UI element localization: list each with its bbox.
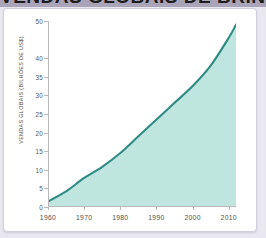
area-series [48,21,236,207]
y-tick-mark [44,77,48,78]
plot-area: 051015202530354050 196019701980199020002… [48,21,236,207]
y-tick-mark [44,151,48,152]
x-tick-label: 1970 [76,214,92,221]
y-tick-mark [44,170,48,171]
y-tick-mark [44,188,48,189]
page-title: VENDAS GLOBAIS DE BRINQUEDOS [0,0,266,7]
y-tick-label: 35 [36,73,43,80]
x-tick-mark [84,206,85,210]
y-tick-label: 50 [36,18,43,25]
y-tick-mark [44,58,48,59]
x-axis-line [48,206,236,207]
y-tick-mark [44,114,48,115]
x-tick-label: 1990 [148,214,164,221]
x-tick-mark [156,206,157,210]
title-banner: VENDAS GLOBAIS DE BRINQUEDOS [0,0,266,7]
y-tick-mark [44,133,48,134]
y-tick-label: 30 [36,92,43,99]
x-tick-label: 1960 [40,214,56,221]
y-axis-line [48,21,49,207]
x-tick-mark [48,206,49,210]
x-tick-mark [229,206,230,210]
chart-screenshot: VENDAS GLOBAIS DE BRINQUEDOS VENDAS GLOB… [0,0,266,238]
area-fill [48,25,236,207]
y-tick-mark [44,95,48,96]
y-tick-label: 0 [39,204,43,211]
y-tick-label: 40 [36,55,43,62]
y-axis-title: VENDAS GLOBAIS (BILHÕES DE US$) [18,20,24,160]
y-tick-label: 5 [39,185,43,192]
x-tick-mark [193,206,194,210]
y-tick-mark [44,21,48,22]
y-tick-label: 15 [36,148,43,155]
x-tick-label: 2010 [221,214,237,221]
y-tick-label: 25 [36,111,43,118]
x-tick-label: 2000 [184,214,200,221]
y-tick-label: 10 [36,166,43,173]
chart-card: VENDAS GLOBAIS (BILHÕES DE US$) 05101520… [3,8,257,232]
y-tick-label: 20 [36,129,43,136]
x-tick-mark [120,206,121,210]
page-body: VENDAS GLOBAIS (BILHÕES DE US$) 05101520… [0,7,266,238]
x-tick-label: 1980 [112,214,128,221]
